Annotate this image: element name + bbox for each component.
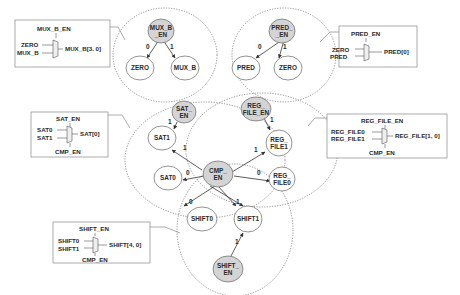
pred-in1: PRED bbox=[330, 53, 348, 60]
sat-out: SAT[0] bbox=[80, 130, 99, 137]
sat-box-bottom: CMP_EN bbox=[55, 148, 81, 155]
shift-box-bottom: CMP_EN bbox=[82, 256, 108, 263]
edge-label: 0 bbox=[257, 169, 261, 176]
edge-label: 1 bbox=[254, 146, 258, 153]
node-label: CMP_ bbox=[209, 167, 227, 174]
node-label: EN bbox=[214, 174, 223, 181]
mux-box-mux-b: MUX_B_EN ZERO MUX_B MUX_B[3. 0] bbox=[15, 20, 110, 67]
edge-label: 1 bbox=[236, 198, 240, 205]
connector-pred bbox=[320, 32, 339, 42]
connector-mux-b bbox=[110, 27, 125, 40]
reg-file-in1: REG_FILE1 bbox=[331, 135, 365, 142]
mux-b-in0: ZERO bbox=[21, 41, 38, 48]
connector-sat bbox=[108, 115, 130, 128]
node-label: SHIFT1 bbox=[237, 215, 259, 222]
edge-label: 1 bbox=[270, 116, 274, 123]
mux-b-box-title: MUX_B_EN bbox=[37, 25, 71, 32]
edge-label: 0 bbox=[146, 43, 150, 50]
node-label: SAT0 bbox=[160, 174, 176, 181]
mux-box-reg-file: REG_FILE_EN REG_FILE0 REG_FILE1 REG_FILE… bbox=[327, 114, 447, 158]
shift-in0: SHIFT0 bbox=[58, 237, 80, 244]
node-label: FILE1 bbox=[270, 143, 288, 150]
node-label: MUX_B bbox=[174, 64, 197, 71]
reg-file-in0: REG_FILE0 bbox=[331, 128, 365, 135]
edge-cmp-sat0 bbox=[183, 176, 204, 180]
connector-reg-file bbox=[308, 118, 327, 126]
mux-b-out: MUX_B[3. 0] bbox=[65, 45, 101, 52]
edge-cmp-sat1 bbox=[172, 150, 202, 170]
node-label: _EN bbox=[275, 31, 289, 38]
node-label: PRED bbox=[237, 64, 255, 71]
mux-box-sat: SAT_EN SAT0 SAT1 SAT[0] CMP_EN bbox=[31, 112, 108, 157]
shift-out: SHIFT[4, 0] bbox=[109, 241, 141, 248]
node-label: SAT_ bbox=[176, 105, 192, 112]
shift-in1: SHIFT1 bbox=[58, 245, 80, 252]
sat-in1: SAT1 bbox=[37, 134, 53, 141]
edge-label: 1 bbox=[283, 43, 287, 50]
node-label: FILE0 bbox=[273, 179, 291, 186]
node-label: SHIFT_ bbox=[217, 262, 239, 269]
reg-file-box-title: REG_FILE_EN bbox=[361, 117, 404, 124]
node-label: EN bbox=[224, 269, 233, 276]
node-label: FILE_EN bbox=[243, 109, 270, 116]
edge-cmp-reg0 bbox=[234, 176, 270, 181]
mux-box-pred: PRED_EN ZERO PRED PRED[0] bbox=[330, 26, 417, 67]
mux-box-shift: SHIFT_EN SHIFT0 SHIFT1 SHIFT[4, 0] CMP_E… bbox=[53, 222, 150, 263]
node-label: REG_ bbox=[247, 102, 265, 109]
dependency-diagram: MUX_B_EN ZERO MUX_B MUX_B[3. 0] PRED_EN … bbox=[0, 0, 460, 295]
edge-label: 0 bbox=[189, 198, 193, 205]
reg-file-out: REG_FILE[1, 0] bbox=[395, 132, 440, 139]
shift-box-title: SHIFT_EN bbox=[79, 225, 109, 232]
node-label: MUX_B bbox=[150, 24, 173, 31]
edge-label: 0 bbox=[186, 169, 190, 176]
edge-label: 1 bbox=[168, 118, 172, 125]
pred-in0: ZERO bbox=[332, 46, 349, 53]
pred-out: PRED[0] bbox=[384, 48, 409, 55]
edge-label: 1 bbox=[235, 238, 239, 245]
mux-symbol bbox=[382, 128, 387, 144]
sat-box-title: SAT_EN bbox=[56, 115, 80, 122]
node-label: ZERO bbox=[131, 64, 149, 71]
edge-label: 0 bbox=[258, 43, 262, 50]
pred-box-title: PRED_EN bbox=[351, 30, 381, 37]
edge-label: 1 bbox=[183, 144, 187, 151]
mux-symbol bbox=[364, 44, 369, 61]
sat-in0: SAT0 bbox=[37, 126, 53, 133]
edge-label: 1 bbox=[170, 43, 174, 50]
node-label: EN bbox=[180, 112, 189, 119]
node-label: SHIFT0 bbox=[191, 215, 213, 222]
node-label: REG_ bbox=[270, 136, 288, 143]
node-label: REG_ bbox=[273, 172, 291, 179]
mux-b-in1: MUX_B bbox=[17, 49, 39, 56]
node-label: PRED_ bbox=[271, 24, 293, 31]
reg-file-box-bottom: CMP_EN bbox=[369, 149, 395, 156]
mux-symbol bbox=[53, 40, 58, 58]
node-label: SAT1 bbox=[154, 134, 170, 141]
node-label: _EN bbox=[154, 31, 168, 38]
mux-symbol bbox=[93, 237, 98, 253]
edge-sat-en-sat1 bbox=[174, 122, 177, 129]
connector-shift bbox=[150, 227, 180, 233]
mux-symbol bbox=[67, 126, 72, 143]
node-label: ZERO bbox=[279, 64, 297, 71]
